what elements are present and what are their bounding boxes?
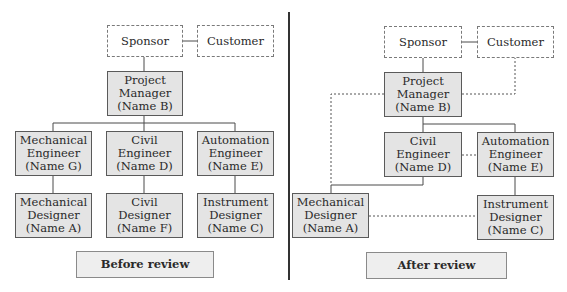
after-mechanical-designer-box: Mechanical Designer (Name A) xyxy=(292,193,369,238)
before-mechanical-engineer-box: Mechanical Engineer (Name G) xyxy=(15,131,92,176)
after-civil-eng-line3: (Name D) xyxy=(395,161,451,174)
before-auto-eng-line3: (Name E) xyxy=(208,160,264,173)
before-project-manager-box: Project Manager (Name B) xyxy=(107,71,183,116)
after-civil-engineer-box: Civil Engineer (Name D) xyxy=(384,132,462,177)
after-auto-eng-line3: (Name E) xyxy=(488,161,544,174)
before-caption-text: Before review xyxy=(101,258,190,271)
after-customer-label: Customer xyxy=(487,36,544,49)
before-civil-engineer-box: Civil Engineer (Name D) xyxy=(106,131,183,176)
before-sponsor-label: Sponsor xyxy=(121,35,169,48)
after-inst-des-line3: (Name C) xyxy=(487,224,543,237)
before-civil-eng-line3: (Name D) xyxy=(116,160,172,173)
after-sponsor-box: Sponsor xyxy=(384,26,462,58)
after-mech-des-line3: (Name A) xyxy=(303,222,359,235)
before-instrument-designer-box: Instrument Designer (Name C) xyxy=(197,193,274,238)
after-caption-text: After review xyxy=(397,259,475,272)
after-project-manager-box: Project Manager (Name B) xyxy=(384,72,462,117)
before-automation-engineer-box: Automation Engineer (Name E) xyxy=(197,131,274,176)
before-inst-des-line3: (Name C) xyxy=(207,222,263,235)
after-pm-line3: (Name B) xyxy=(395,101,451,114)
before-customer-label: Customer xyxy=(207,35,264,48)
before-civil-designer-box: Civil Designer (Name F) xyxy=(106,193,183,238)
before-pm-line3: (Name B) xyxy=(117,100,173,113)
after-instrument-designer-box: Instrument Designer (Name C) xyxy=(477,195,554,240)
after-automation-engineer-box: Automation Engineer (Name E) xyxy=(477,132,554,177)
before-customer-box: Customer xyxy=(197,25,274,57)
before-sponsor-box: Sponsor xyxy=(107,25,183,57)
before-civil-des-line3: (Name F) xyxy=(117,222,172,235)
after-review-caption: After review xyxy=(366,252,507,279)
org-chart-comparison: Sponsor Customer Project Manager (Name B… xyxy=(0,0,567,292)
after-customer-box: Customer xyxy=(477,26,554,58)
before-mechanical-designer-box: Mechanical Designer (Name A) xyxy=(15,193,92,238)
after-sponsor-label: Sponsor xyxy=(399,36,447,49)
before-mech-des-line3: (Name A) xyxy=(26,222,82,235)
before-review-caption: Before review xyxy=(76,251,214,278)
section-divider xyxy=(288,12,290,280)
before-mech-eng-line3: (Name G) xyxy=(25,160,81,173)
